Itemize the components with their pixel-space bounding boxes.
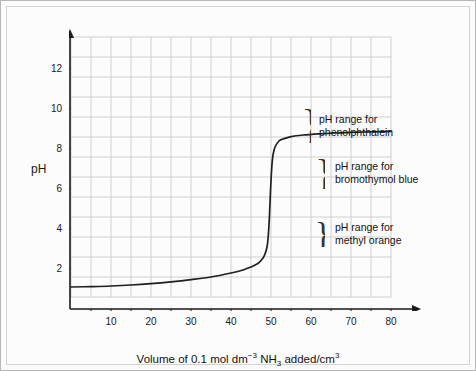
y-tick-label: 12: [36, 63, 62, 74]
annotation-line-1: pH range for: [319, 113, 393, 126]
x-tick-label: 40: [216, 316, 246, 327]
x-tick-label: 70: [336, 316, 366, 327]
x-tick-label: 80: [376, 316, 406, 327]
x-tick-label: 30: [176, 316, 206, 327]
x-axis-title-pre: Volume of 0.1 mol dm: [137, 353, 248, 365]
annotation-line-1: pH range for: [335, 221, 402, 234]
y-tick-label: 10: [36, 103, 62, 114]
x-axis-title: Volume of 0.1 mol dm−3 NH3 added/cm3: [7, 351, 469, 368]
brace-bromothymol-blue: }: [315, 157, 325, 189]
annotation-methyl-orange: pH range formethyl orange: [335, 221, 402, 246]
x-tick-label: 10: [96, 316, 126, 327]
y-tick-label: 8: [36, 143, 62, 154]
figure-frame: pH 24681012 1020304050607080 }pH range f…: [0, 0, 476, 371]
annotation-bromothymol-blue: pH range forbromothymol blue: [335, 160, 418, 185]
tick-marks: [69, 69, 391, 311]
y-tick-label: 2: [36, 263, 62, 274]
x-axis-title-sup2: 3: [335, 351, 339, 360]
brace-methyl-orange: }: [315, 221, 325, 247]
x-tick-label: 60: [296, 316, 326, 327]
annotation-line-1: pH range for: [335, 160, 418, 173]
y-axis-title: pH: [31, 162, 46, 176]
y-tick-label: 4: [36, 223, 62, 234]
brace-phenolphthalein: }: [301, 109, 311, 143]
x-tick-label: 20: [136, 316, 166, 327]
figure-inner-border: pH 24681012 1020304050607080 }pH range f…: [6, 6, 470, 365]
x-axis-title-post: added/cm: [281, 353, 335, 365]
annotation-line-2: phenolphthalein: [319, 126, 393, 139]
annotation-phenolphthalein: pH range forphenolphthalein: [319, 113, 393, 138]
y-tick-label: 6: [36, 183, 62, 194]
x-axis-title-sup1: −3: [248, 351, 257, 360]
x-axis-title-mid: NH: [257, 353, 277, 365]
annotation-line-2: bromothymol blue: [335, 173, 418, 186]
x-tick-label: 50: [256, 316, 286, 327]
annotation-line-2: methyl orange: [335, 234, 402, 247]
